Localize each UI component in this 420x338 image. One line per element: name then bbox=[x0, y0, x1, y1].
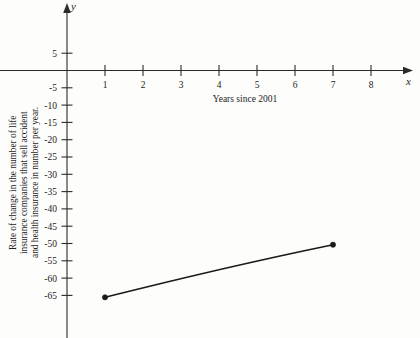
y-tick-label-minus-25: -25 bbox=[44, 152, 57, 162]
y-tick-label-5: 5 bbox=[52, 49, 57, 59]
y-axis-caption-line-3: and health insurance in number per year. bbox=[30, 107, 40, 258]
x-axis-arrowhead bbox=[403, 67, 413, 75]
x-tick-label-6: 6 bbox=[293, 80, 298, 90]
x-axis: x bbox=[0, 67, 413, 87]
y-tick-label-minus-65: -65 bbox=[44, 291, 57, 301]
y-tick-label-minus-55: -55 bbox=[44, 256, 57, 266]
y-tick-label-minus-10: -10 bbox=[44, 101, 57, 111]
chart-page: y x 1 2 3 4 5 6 7 8 bbox=[0, 0, 420, 338]
y-tick-label-minus-20: -20 bbox=[44, 135, 57, 145]
x-tick-label-3: 3 bbox=[179, 80, 184, 90]
y-axis-caption-line-1: Rate of change in the number of life bbox=[8, 116, 18, 251]
x-tick-label-2: 2 bbox=[141, 80, 146, 90]
y-axis-caption-line-2: insurance companies that sell accident bbox=[19, 111, 29, 254]
y-axis-name-label: y bbox=[70, 0, 76, 12]
x-tick-label-4: 4 bbox=[217, 80, 222, 90]
y-tick-label-minus-15: -15 bbox=[44, 118, 57, 128]
data-point-end bbox=[330, 242, 335, 247]
y-tick-label-minus-50: -50 bbox=[44, 239, 57, 249]
y-tick-label-minus-45: -45 bbox=[44, 222, 57, 232]
y-tick-label-minus-60: -60 bbox=[44, 274, 57, 284]
y-axis: y bbox=[63, 0, 76, 338]
y-axis-ticks: 5 -5 -10 -15 -20 -25 -30 -35 -40 -45 -50… bbox=[44, 49, 72, 301]
x-tick-label-1: 1 bbox=[103, 80, 108, 90]
coordinate-plane-chart: y x 1 2 3 4 5 6 7 8 bbox=[0, 0, 420, 338]
x-tick-label-7: 7 bbox=[331, 80, 336, 90]
y-axis-arrowhead bbox=[63, 3, 71, 13]
x-axis-caption: Years since 2001 bbox=[213, 94, 278, 104]
x-tick-label-5: 5 bbox=[255, 80, 260, 90]
data-series bbox=[102, 242, 335, 300]
x-axis-name-label: x bbox=[405, 75, 411, 87]
y-tick-label-minus-35: -35 bbox=[44, 187, 57, 197]
y-axis-caption: Rate of change in the number of life ins… bbox=[8, 107, 40, 258]
series-curve bbox=[105, 245, 333, 298]
y-tick-label-minus-40: -40 bbox=[44, 204, 57, 214]
data-point-start bbox=[102, 295, 107, 300]
x-axis-ticks: 1 2 3 4 5 6 7 8 bbox=[103, 65, 374, 90]
x-tick-label-8: 8 bbox=[369, 80, 374, 90]
y-tick-label-minus-30: -30 bbox=[44, 170, 57, 180]
y-tick-label-minus-5: -5 bbox=[49, 83, 57, 93]
